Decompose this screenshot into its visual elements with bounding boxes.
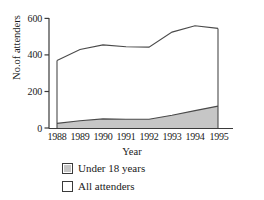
legend-item-all-attenders: All attenders: [62, 177, 145, 195]
x-tick-label-1990: 1990: [91, 131, 115, 142]
legend-swatch-all-attenders-icon: [62, 181, 73, 192]
legend-item-under-18: Under 18 years: [62, 159, 145, 177]
x-tick-label-1991: 1991: [114, 131, 138, 142]
y-axis-title: No.of attenders: [11, 0, 22, 96]
y-tick-label-0: 0: [14, 123, 42, 134]
x-tick-label-1988: 1988: [45, 131, 69, 142]
x-axis-title: Year: [0, 146, 264, 157]
x-tick-label-1993: 1993: [160, 131, 184, 142]
x-tick-label-1989: 1989: [68, 131, 92, 142]
x-tick-label-1992: 1992: [137, 131, 161, 142]
legend-swatch-under-18-icon: [62, 163, 73, 174]
x-tick-label-1994: 1994: [183, 131, 207, 142]
chart-figure: 0 200 400 600 1988 1989 1990 1991 1992 1…: [0, 0, 264, 200]
legend-label-all-attenders: All attenders: [78, 181, 135, 192]
chart-legend: Under 18 years All attenders: [62, 159, 145, 195]
legend-label-under-18: Under 18 years: [78, 163, 145, 174]
x-tick-label-1995: 1995: [207, 131, 231, 142]
